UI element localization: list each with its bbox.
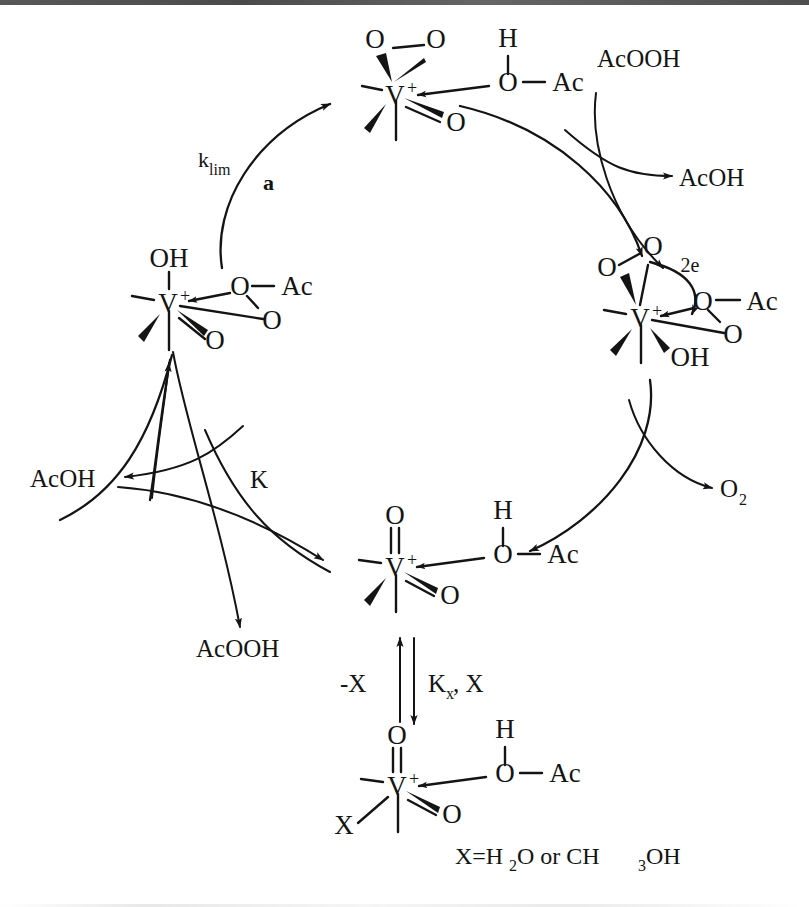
o2-base-label: O	[720, 475, 738, 502]
top-acetate-o-label: O	[498, 67, 518, 97]
top-peroxo-left-o-label: O	[365, 24, 385, 54]
reagent-acoh-out-left-label: AcOH	[30, 465, 95, 492]
caption-suffix: OH	[646, 843, 681, 869]
bottomx-acetic-h-label: H	[495, 714, 515, 744]
reagent-o2-label: O 2	[720, 475, 747, 508]
top-vanadium-label: V	[385, 80, 405, 110]
top-peroxo-right-o-label: O	[426, 24, 446, 54]
reaction-scheme-figure: O O V + O H O Ac O O V + OH O Ac O 2e OH…	[0, 0, 809, 907]
equilibrium-double-arrow	[400, 638, 414, 724]
kx-rest-label: , X	[453, 670, 484, 697]
bottomx-oxo-top-label: O	[387, 720, 407, 750]
complex-left-hydroxo-peracetate	[132, 272, 274, 350]
cycle-arc-bottom-to-left	[60, 355, 172, 520]
o2-sub-label: 2	[739, 491, 747, 508]
caption-mid: O or CH	[517, 843, 600, 869]
bottomx-vanadium-charge: +	[409, 769, 419, 789]
right-acetate-o-label: O	[693, 286, 713, 316]
cycle-arc-left-to-top	[221, 104, 330, 268]
top-acetate-h-label: H	[498, 23, 518, 53]
equilibrium-k-label: K	[250, 466, 268, 493]
right-hydroxo-label: OH	[671, 342, 710, 372]
right-vanadium-charge: +	[652, 301, 662, 321]
cycle-arrow-into-left-complex	[152, 363, 169, 498]
bottomcenter-acetic-h-label: H	[493, 495, 513, 525]
bottomcenter-acetic-o-label: O	[493, 539, 513, 569]
kx-equilibrium-label: K x , X	[428, 670, 484, 702]
kx-base-label: K	[428, 670, 446, 697]
left-vanadium-charge: +	[180, 286, 190, 306]
reagent-acooh-in-label: AcOOH	[597, 45, 680, 72]
bottomx-x-ligand-label: X	[334, 810, 354, 840]
klim-sub-label: lim	[209, 161, 231, 178]
caption-prefix: X=H	[455, 843, 503, 869]
right-vanadium-label: V	[630, 303, 650, 333]
branch-a-label: a	[263, 170, 274, 195]
bottomcenter-vanadium-charge: +	[407, 550, 417, 570]
reagent-arrow-acoh-out	[565, 130, 672, 176]
caption-sub2: 3	[638, 857, 646, 874]
bottomcenter-oxo-o-label: O	[440, 580, 460, 610]
left-oxo-o-label: O	[205, 325, 225, 355]
right-carbonyl-o-label: O	[723, 319, 743, 349]
minus-x-label: -X	[340, 670, 366, 697]
bottomcenter-acetic-ac-label: Ac	[547, 539, 578, 569]
top-vanadium-charge: +	[407, 78, 417, 98]
top-oxo-o-label: O	[446, 107, 466, 137]
caption-sub1: 2	[509, 857, 517, 874]
bottomx-acetic-o-label: O	[495, 758, 515, 788]
bottomcenter-vanadium-label: V	[385, 552, 405, 582]
rate-constant-klim-label: k lim	[198, 147, 231, 178]
reagent-arrow-acooh-out-left	[173, 352, 240, 627]
reagent-acoh-out-right-label: AcOH	[679, 164, 744, 191]
bottomcenter-oxo-top-label: O	[385, 500, 405, 530]
bottomx-vanadium-label: V	[387, 771, 407, 801]
cycle-arc-right-to-bottom	[530, 380, 651, 551]
left-peracetate-ac-label: Ac	[281, 271, 312, 301]
scheme-canvas: O O V + O H O Ac O O V + OH O Ac O 2e OH…	[0, 0, 809, 907]
scheme-caption: X=H 2 O or CH 3 OH	[455, 843, 681, 874]
klim-base-label: k	[198, 147, 209, 172]
left-vanadium-label: V	[158, 288, 178, 318]
bottomx-oxo-o-label: O	[442, 799, 462, 829]
reagent-acooh-out-left-label: AcOOH	[196, 635, 279, 662]
left-peracetate-o-label: O	[230, 271, 250, 301]
right-acetate-ac-label: Ac	[746, 286, 777, 316]
bottomx-acetic-ac-label: Ac	[549, 758, 580, 788]
cycle-arc-top-to-right	[460, 106, 642, 256]
two-electron-label: 2e	[681, 254, 700, 276]
left-hydroxo-label: OH	[150, 243, 189, 273]
right-peroxo-left-o-label: O	[597, 252, 617, 282]
top-acetate-ac-label: Ac	[552, 67, 583, 97]
left-peracetate-o2-label: O	[262, 305, 282, 335]
right-peroxo-upper-o-label: O	[643, 231, 663, 261]
